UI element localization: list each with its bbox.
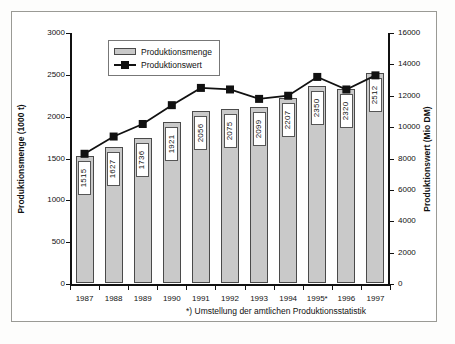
legend-bar-swatch-icon [114, 48, 136, 55]
x-tick-label: 1991 [186, 295, 215, 303]
line-marker [197, 84, 205, 92]
line-marker [226, 85, 234, 93]
line-marker [139, 120, 147, 128]
legend-entry-produktionsmenge: Produktionsmenge [114, 45, 212, 58]
left-axis-title: Produktionsmenge (1000 t) [14, 33, 28, 285]
line-marker [342, 85, 350, 93]
right-tick-label: 6000 [398, 186, 416, 194]
right-tick-label: 4000 [398, 217, 416, 225]
left-tick-label: 1000 [47, 196, 65, 204]
x-tick-label: 1997 [361, 295, 390, 303]
left-tick-label: 0 [61, 280, 65, 288]
x-tick-label: 1994 [274, 295, 303, 303]
right-tick-label: 10000 [398, 123, 420, 131]
left-tick-label: 3000 [47, 29, 65, 37]
line-marker [110, 133, 118, 141]
line-marker [168, 101, 176, 109]
line-marker [284, 92, 292, 100]
right-tick-label: 16000 [398, 29, 420, 37]
x-tick-label: 1990 [157, 295, 186, 303]
left-tick-label: 2500 [47, 71, 65, 79]
chart-footnote: *) Umstellung der amtlichen Produktionss… [186, 306, 366, 316]
left-axis-title-text: Produktionsmenge (1000 t) [16, 104, 26, 213]
right-tick-label: 12000 [398, 92, 420, 100]
line-marker [255, 95, 263, 103]
line-marker [313, 73, 321, 81]
left-tick-label: 1500 [47, 155, 65, 163]
right-tick-label: 0 [398, 280, 402, 288]
line-marker [81, 150, 89, 158]
right-tick-label: 14000 [398, 60, 420, 68]
x-tick-label: 1996 [332, 295, 361, 303]
left-tick-label: 2000 [47, 113, 65, 121]
chart-page: Produktionsmenge (1000 t) Produktionswer… [0, 0, 455, 344]
x-tick-label: 1993 [245, 295, 274, 303]
right-tick-label: 2000 [398, 249, 416, 257]
right-tick-label: 8000 [398, 155, 416, 163]
legend-label-produktionswert: Produktionswert [141, 60, 202, 70]
right-axis-title: Produktionswert (Mio DM) [420, 33, 434, 285]
left-tick-label: 500 [52, 238, 65, 246]
x-tick [390, 285, 391, 290]
chart-legend: Produktionsmenge Produktionswert [108, 40, 220, 76]
x-tick-label: 1989 [128, 295, 157, 303]
right-axis-title-text: Produktionswert (Mio DM) [422, 106, 432, 211]
legend-label-produktionsmenge: Produktionsmenge [141, 47, 212, 57]
legend-line-swatch-icon [114, 60, 136, 69]
legend-entry-produktionswert: Produktionswert [114, 58, 212, 71]
x-tick-label: 1987 [70, 295, 99, 303]
line-marker [371, 71, 379, 79]
x-tick-label: 1992 [215, 295, 244, 303]
x-tick-label: 1995* [303, 295, 332, 303]
x-tick-label: 1988 [99, 295, 128, 303]
